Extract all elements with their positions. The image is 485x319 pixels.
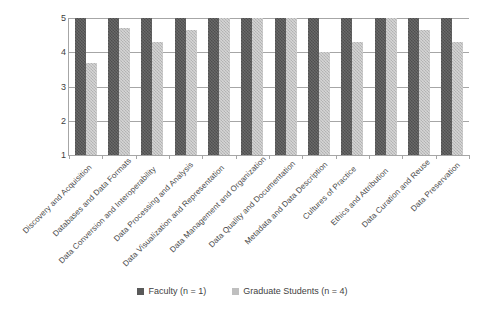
legend-label: Faculty (n = 1) bbox=[148, 286, 206, 296]
bar-group bbox=[136, 18, 169, 155]
bar bbox=[341, 18, 352, 155]
bar bbox=[75, 18, 86, 155]
y-tick-label: 4 bbox=[52, 48, 66, 57]
bar bbox=[241, 18, 252, 155]
y-tick-label: 5 bbox=[52, 14, 66, 23]
legend-item: Faculty (n = 1) bbox=[137, 286, 206, 296]
plot-wrapper: 54321 bbox=[0, 0, 485, 175]
bar bbox=[286, 18, 297, 155]
bars-layer bbox=[69, 18, 469, 155]
bar bbox=[386, 18, 397, 155]
bar-group bbox=[302, 18, 335, 155]
bar-group bbox=[336, 18, 369, 155]
plot-area bbox=[69, 18, 469, 155]
y-axis-tick-labels: 54321 bbox=[52, 12, 66, 155]
bar-group bbox=[102, 18, 135, 155]
bar bbox=[419, 30, 430, 155]
bar bbox=[408, 18, 419, 155]
bar bbox=[375, 18, 386, 155]
bar-group bbox=[169, 18, 202, 155]
bar bbox=[186, 30, 197, 155]
bar-group bbox=[402, 18, 435, 155]
bar bbox=[252, 18, 263, 155]
bar bbox=[119, 28, 130, 155]
y-tick-label: 2 bbox=[52, 116, 66, 125]
bar-chart: 54321 Discovery and AcquisitionDatabases… bbox=[0, 0, 485, 319]
bar bbox=[108, 18, 119, 155]
bar bbox=[152, 42, 163, 155]
bar bbox=[86, 63, 97, 155]
legend-swatch-icon bbox=[137, 288, 144, 295]
bar bbox=[275, 18, 286, 155]
bar bbox=[452, 42, 463, 155]
x-axis-label: Ethics and Attribution bbox=[329, 166, 390, 227]
x-axis-category-labels: Discovery and AcquisitionDatabases and D… bbox=[0, 158, 485, 273]
bar-group bbox=[269, 18, 302, 155]
y-tick-label: 3 bbox=[52, 82, 66, 91]
bar bbox=[141, 18, 152, 155]
bar-group bbox=[202, 18, 235, 155]
bar bbox=[175, 18, 186, 155]
bar bbox=[319, 52, 330, 155]
legend-label: Graduate Students (n = 4) bbox=[243, 286, 347, 296]
bar bbox=[441, 18, 452, 155]
bar bbox=[352, 42, 363, 155]
legend-item: Graduate Students (n = 4) bbox=[232, 286, 347, 296]
legend-swatch-icon bbox=[232, 288, 239, 295]
bar-group bbox=[436, 18, 469, 155]
bar bbox=[219, 18, 230, 155]
bar-group bbox=[69, 18, 102, 155]
chart-legend: Faculty (n = 1)Graduate Students (n = 4) bbox=[0, 286, 485, 296]
bar bbox=[208, 18, 219, 155]
bar bbox=[308, 18, 319, 155]
bar-group bbox=[369, 18, 402, 155]
bar-group bbox=[236, 18, 269, 155]
